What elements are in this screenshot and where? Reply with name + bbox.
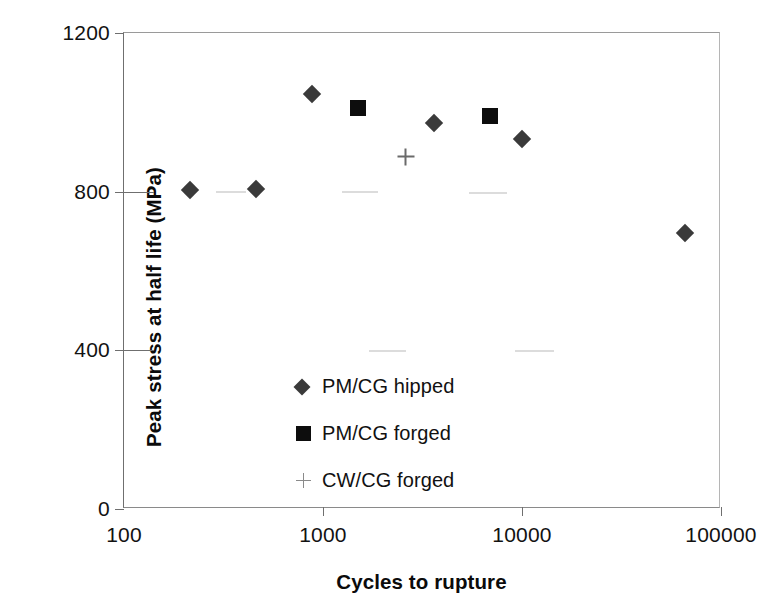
y-tick-inner-mark xyxy=(124,192,154,193)
x-tick-mark xyxy=(323,507,324,516)
data-point-square xyxy=(350,100,366,116)
scan-artifact-dash xyxy=(216,191,246,192)
data-point-square xyxy=(482,108,498,124)
x-axis-title: Cycles to rupture xyxy=(123,570,720,594)
square-marker-icon xyxy=(296,424,322,444)
x-tick-mark xyxy=(522,507,523,516)
diamond-marker-icon xyxy=(296,377,322,397)
x-tick-label: 100 xyxy=(106,523,142,547)
y-tick-label: 400 xyxy=(74,338,110,362)
legend: PM/CG hipped PM/CG forged CW/CG forged xyxy=(296,363,526,504)
y-tick-inner-mark xyxy=(124,350,154,351)
plus-marker-icon xyxy=(296,471,322,491)
y-tick-mark xyxy=(115,192,124,193)
fatigue-scatter-chart: Peak stress at half life (MPa) 040080012… xyxy=(0,0,774,614)
y-tick-label: 800 xyxy=(74,180,110,204)
legend-label: CW/CG forged xyxy=(322,469,454,492)
legend-item-cw-cg-forged: CW/CG forged xyxy=(296,457,526,504)
y-tick-mark xyxy=(115,350,124,351)
x-tick-mark xyxy=(721,507,722,516)
legend-item-pm-cg-hipped: PM/CG hipped xyxy=(296,363,526,410)
y-tick-mark xyxy=(115,33,124,34)
plot-area: 04008001200 100100010000100000 PM/CG hip… xyxy=(123,32,720,508)
scan-artifact-dash xyxy=(515,351,554,352)
y-tick-label: 1200 xyxy=(62,21,110,45)
data-point-diamond xyxy=(425,114,443,132)
scan-artifact-dash xyxy=(469,192,507,193)
x-tick-label: 100000 xyxy=(685,523,756,547)
data-point-diamond xyxy=(181,180,199,198)
y-tick-label: 0 xyxy=(98,497,110,521)
data-point-plus xyxy=(397,148,414,165)
x-tick-label: 1000 xyxy=(299,523,347,547)
legend-label: PM/CG hipped xyxy=(322,375,454,398)
legend-label: PM/CG forged xyxy=(322,422,451,445)
y-tick-mark xyxy=(115,509,124,510)
legend-item-pm-cg-forged: PM/CG forged xyxy=(296,410,526,457)
data-point-diamond xyxy=(513,130,531,148)
x-tick-label: 10000 xyxy=(492,523,551,547)
data-point-diamond xyxy=(247,180,265,198)
scan-artifact-dash xyxy=(369,350,406,351)
data-point-diamond xyxy=(676,223,694,241)
data-point-diamond xyxy=(303,85,321,103)
scan-artifact-dash xyxy=(342,192,378,193)
